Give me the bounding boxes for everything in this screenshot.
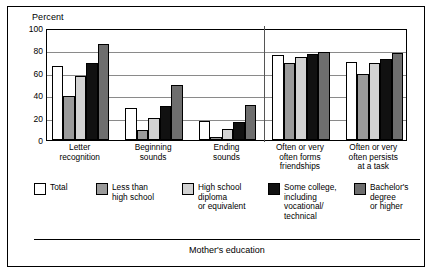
bar (346, 62, 357, 140)
footer-divider (34, 239, 420, 240)
bar (380, 59, 391, 140)
bar (52, 66, 63, 140)
y-axis-tick-label: 60 (34, 70, 43, 79)
y-axis-title: Percent (32, 12, 64, 22)
x-axis-category-label: Often or very often forms friendships (263, 143, 336, 172)
bar-group (52, 30, 109, 140)
bar-group (125, 30, 182, 140)
x-axis-category-label: Ending sounds (190, 143, 263, 162)
y-axis-tick-label: 20 (34, 115, 43, 124)
bar (75, 76, 86, 140)
legend-swatch (34, 183, 46, 195)
bar (284, 63, 295, 140)
legend-swatch (354, 183, 366, 195)
legend-item: Total (34, 183, 68, 195)
x-axis-title: Mother's education (34, 245, 420, 255)
y-axis-tick-label: 100 (29, 25, 43, 34)
bar (318, 52, 329, 140)
chart-legend: TotalLess than high schoolHigh school di… (34, 183, 420, 231)
bar (148, 118, 159, 140)
plot-area (46, 29, 407, 141)
bar (86, 63, 97, 140)
legend-item: Less than high school (96, 183, 154, 202)
y-axis-tick-label: 80 (34, 47, 43, 56)
bar (125, 108, 136, 140)
bar (199, 121, 210, 140)
bar (357, 74, 368, 140)
legend-label: Total (50, 183, 68, 193)
bar (272, 55, 283, 140)
bar (392, 53, 403, 140)
legend-label: High school diploma or equivalent (198, 183, 246, 212)
x-axis-category-labels: Letter recognitionBeginning soundsEnding… (46, 143, 407, 177)
bar (245, 105, 256, 140)
legend-swatch (96, 183, 108, 195)
x-axis-category-label: Beginning sounds (116, 143, 189, 162)
legend-item: Some college, including vocational/ tech… (268, 183, 337, 221)
bar-group (346, 30, 403, 140)
legend-swatch (182, 183, 194, 195)
bar-group (272, 30, 329, 140)
bar (307, 54, 318, 140)
bar (369, 63, 380, 140)
legend-label: Some college, including vocational/ tech… (284, 183, 337, 221)
group-divider (264, 26, 265, 142)
legend-item: Bachelor's degree or higher (354, 183, 408, 212)
legend-label: Less than high school (112, 183, 154, 202)
bar (160, 106, 171, 140)
plot-inner (47, 30, 406, 140)
bar (295, 57, 306, 140)
bar (98, 44, 109, 140)
y-axis-tick-labels: 020406080100 (22, 29, 43, 141)
bar (210, 137, 221, 140)
y-axis-tick-label: 40 (34, 92, 43, 101)
chart-figure: Percent 020406080100 Letter recognitionB… (7, 6, 425, 267)
bar (137, 130, 148, 140)
bar (171, 85, 182, 140)
legend-item: High school diploma or equivalent (182, 183, 246, 212)
bar (63, 96, 74, 140)
bar (233, 122, 244, 140)
x-axis-category-label: Letter recognition (43, 143, 116, 162)
bar (222, 129, 233, 140)
legend-label: Bachelor's degree or higher (370, 183, 408, 212)
x-axis-category-label: Often or very often persists at a task (337, 143, 410, 172)
legend-swatch (268, 183, 280, 195)
bar-group (199, 30, 256, 140)
